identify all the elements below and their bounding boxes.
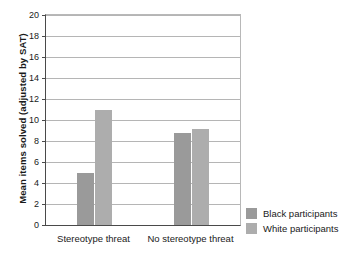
bar-chart-figure: Mean items solved (adjusted by SAT) 0246… xyxy=(0,0,359,267)
y-axis-tick-label: 16 xyxy=(29,52,39,62)
y-axis-tick-label: 10 xyxy=(29,115,39,125)
chart-legend: Black participantsWhite participants xyxy=(246,206,339,236)
bar xyxy=(192,129,209,225)
bar-group xyxy=(46,15,240,225)
legend-label: White participants xyxy=(263,223,339,234)
y-axis-tick-label: 2 xyxy=(34,199,39,209)
bar xyxy=(174,133,191,225)
legend-item: White participants xyxy=(246,221,339,236)
plot-area: 02468101214161820 xyxy=(45,14,241,226)
y-axis-tick-label: 14 xyxy=(29,73,39,83)
y-axis-tick-mark xyxy=(42,225,46,226)
x-axis-tick-label: No stereotype threat xyxy=(147,233,233,244)
y-axis-tick-label: 8 xyxy=(34,136,39,146)
y-axis-tick-label: 20 xyxy=(29,10,39,20)
legend-item: Black participants xyxy=(246,206,339,221)
y-axis-tick-label: 12 xyxy=(29,94,39,104)
legend-color-swatch xyxy=(246,208,257,219)
y-axis-tick-label: 18 xyxy=(29,31,39,41)
x-axis-tick-label: Stereotype threat xyxy=(57,233,130,244)
legend-color-swatch xyxy=(246,223,257,234)
legend-label: Black participants xyxy=(263,208,337,219)
y-axis-tick-label: 6 xyxy=(34,157,39,167)
y-axis-title: Mean items solved (adjusted by SAT) xyxy=(17,11,28,226)
y-axis-tick-label: 0 xyxy=(34,220,39,230)
y-axis-tick-label: 4 xyxy=(34,178,39,188)
